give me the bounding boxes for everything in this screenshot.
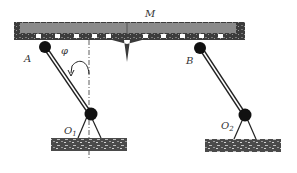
label-o2-main: O xyxy=(221,120,229,131)
joint-a xyxy=(39,41,51,53)
label-o1-main: O xyxy=(64,125,72,136)
label-o2-sub: 2 xyxy=(228,125,234,133)
label-o2: O2 xyxy=(221,120,234,133)
label-a: A xyxy=(23,53,31,64)
beam-top-face xyxy=(20,23,236,33)
ground-block-2 xyxy=(205,139,281,152)
angle-arrow-phi xyxy=(71,61,89,74)
label-phi: φ xyxy=(61,45,68,56)
label-o1: O1 xyxy=(64,125,77,138)
link-b-o2 xyxy=(200,47,244,114)
mechanism-diagram: M A B φ O1 O2 xyxy=(0,0,297,173)
beam-center-spike xyxy=(112,40,142,62)
joint-o1 xyxy=(85,108,98,121)
joint-b xyxy=(194,42,206,54)
joint-o2 xyxy=(239,109,252,122)
label-m: M xyxy=(144,8,156,19)
label-b: B xyxy=(185,55,193,66)
ground-block-1 xyxy=(51,138,127,151)
label-o1-sub: 1 xyxy=(72,130,76,138)
